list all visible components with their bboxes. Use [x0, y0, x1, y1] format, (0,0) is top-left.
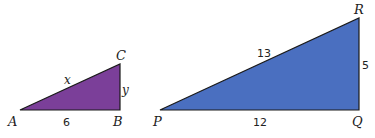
side-ac-label: x	[64, 73, 71, 87]
side-pq-label: 12	[253, 116, 267, 129]
side-bc-label: y	[121, 83, 129, 97]
vertex-a-label: A	[7, 114, 17, 129]
side-qr-label: 5	[362, 59, 369, 72]
side-ab-label: 6	[63, 116, 70, 129]
vertex-c-label: C	[116, 48, 126, 63]
triangle-abc	[20, 64, 120, 110]
vertex-r-label: R	[353, 2, 364, 17]
triangle-pqr	[160, 18, 359, 110]
vertex-p-label: P	[152, 114, 162, 129]
side-pr-label: 13	[257, 47, 271, 60]
vertex-b-label: B	[112, 114, 123, 129]
similar-triangles-diagram: A B C 6 x y P Q R 12 13 5	[0, 0, 375, 138]
vertex-q-label: Q	[352, 114, 363, 129]
